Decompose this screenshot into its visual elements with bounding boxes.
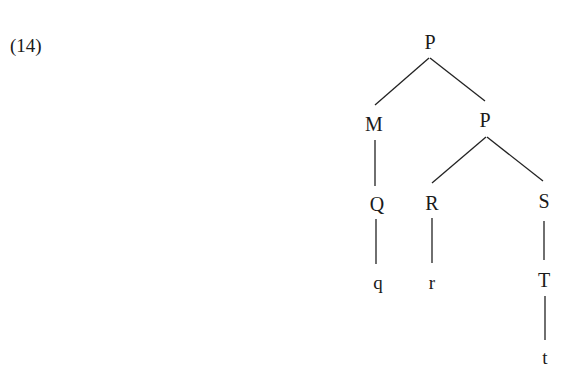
node-q: Q <box>370 194 384 214</box>
edge-p-s <box>487 137 543 181</box>
edge-p-m <box>375 58 429 105</box>
node-t: T <box>538 270 550 290</box>
edge-p-p <box>430 58 485 101</box>
leaf-r: r <box>429 273 435 293</box>
tree-edges <box>0 0 562 379</box>
node-root-p: P <box>424 32 435 52</box>
node-p: P <box>479 110 490 130</box>
leaf-q: q <box>373 273 383 293</box>
edge-p-r <box>432 137 486 183</box>
node-m: M <box>365 114 383 134</box>
node-r: R <box>425 193 438 213</box>
node-s: S <box>538 191 549 211</box>
leaf-t: t <box>542 348 547 368</box>
